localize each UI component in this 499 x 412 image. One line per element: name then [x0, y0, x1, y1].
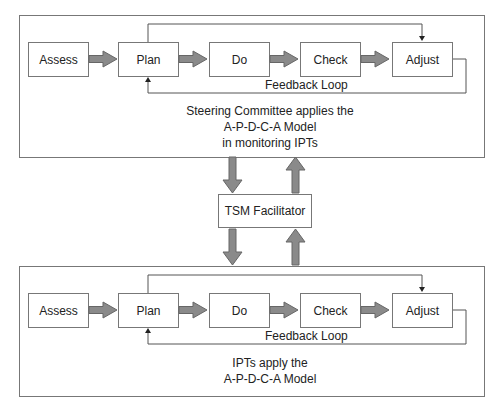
top-arrow-plan-do-icon — [179, 51, 207, 67]
connectors — [0, 0, 499, 412]
arrow-down-to-bottom-icon — [223, 229, 242, 265]
bottom-arrow-check-adjust-icon — [361, 302, 389, 318]
arrowhead-up-icon — [145, 328, 151, 333]
top-arrow-assess-plan-icon — [89, 51, 117, 67]
arrowhead-down-icon — [419, 36, 425, 41]
arrow-up-from-facilitator-icon — [286, 157, 305, 193]
bottom-arrow-assess-plan-icon — [89, 302, 117, 318]
arrowhead-down-icon — [419, 287, 425, 292]
bottom-arrow-plan-do-icon — [179, 302, 207, 318]
bottom-arrow-do-check-icon — [270, 302, 298, 318]
top-arrow-check-adjust-icon — [361, 51, 389, 67]
arrowhead-up-icon — [145, 77, 151, 82]
bottom-plan-to-adjust-line — [148, 275, 422, 293]
arrow-up-to-facilitator-icon — [286, 229, 305, 265]
top-arrow-do-check-icon — [270, 51, 298, 67]
arrow-down-to-facilitator-icon — [223, 157, 242, 193]
top-plan-to-adjust-line — [148, 24, 422, 42]
